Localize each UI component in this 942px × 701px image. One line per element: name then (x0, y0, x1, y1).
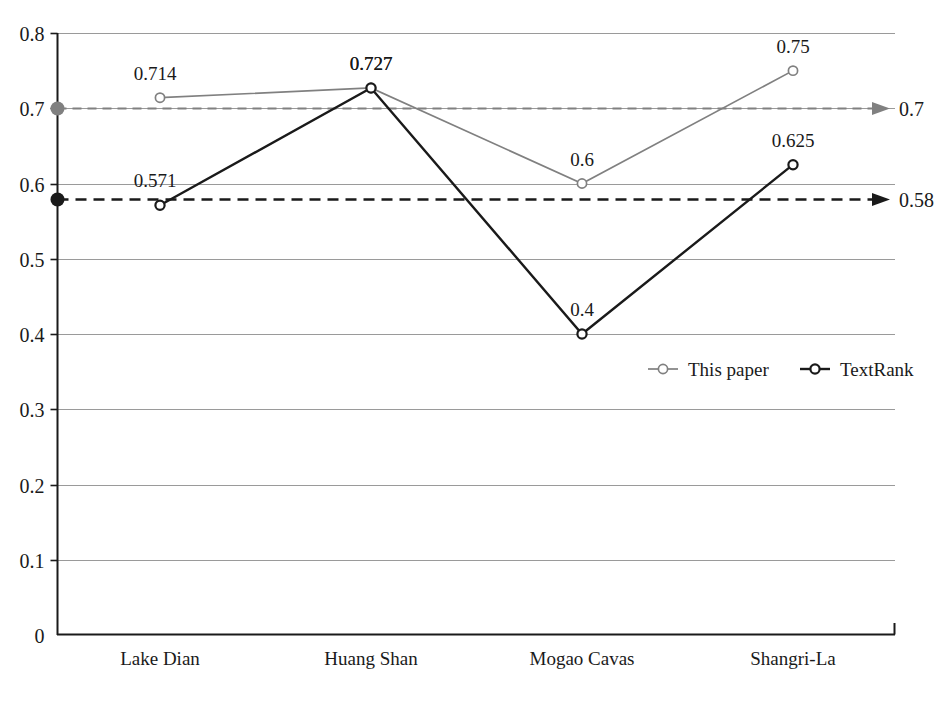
x-axis-category-label: Mogao Cavas (529, 648, 634, 669)
reference-line-label: 0.58 (899, 189, 934, 211)
y-axis-tick-label: 0.5 (20, 249, 45, 271)
data-point-marker (788, 66, 797, 75)
y-axis-tick-label: 0.3 (20, 399, 45, 421)
data-point-label: 0.6 (570, 149, 594, 170)
y-axis-tick-label: 0.8 (20, 23, 45, 45)
legend-marker-icon (810, 364, 819, 373)
legend-marker-icon (658, 364, 667, 373)
legend-label: This paper (688, 359, 769, 380)
data-point-label: 0.727 (350, 53, 393, 74)
y-axis-tick-label: 0.4 (20, 324, 45, 346)
y-axis-tick-label: 0.7 (20, 98, 45, 120)
data-point-marker (366, 83, 375, 92)
chart-canvas: 00.10.20.30.40.50.60.70.8 0.7140.7270.60… (0, 0, 942, 701)
reference-line-label: 0.7 (899, 98, 924, 120)
y-axis-tick-label: 0.6 (20, 174, 45, 196)
data-point-marker (788, 160, 797, 169)
data-point-label: 0.75 (776, 36, 809, 57)
data-point-label: 0.571 (134, 170, 177, 191)
chart-background (0, 0, 942, 701)
x-axis-category-label: Shangri-La (750, 648, 836, 669)
line-chart: 00.10.20.30.40.50.60.70.8 0.7140.7270.60… (0, 0, 942, 701)
y-axis-tick-labels: 00.10.20.30.40.50.60.70.8 (20, 23, 45, 647)
y-axis-tick-label: 0.2 (20, 475, 45, 497)
data-point-marker (155, 93, 164, 102)
y-axis-tick-label: 0.1 (20, 550, 45, 572)
data-point-marker (155, 201, 164, 210)
x-axis-category-label: Lake Dian (120, 648, 200, 669)
reference-line-origin-dot (51, 193, 65, 207)
reference-line-origin-dot (51, 102, 65, 116)
data-point-marker (577, 329, 586, 338)
data-point-label: 0.4 (570, 299, 594, 320)
data-point-marker (577, 179, 586, 188)
x-axis-category-label: Huang Shan (324, 648, 418, 669)
y-axis-tick-label: 0 (35, 625, 45, 647)
legend-label: TextRank (840, 359, 914, 380)
data-point-label: 0.625 (772, 130, 815, 151)
data-point-label: 0.714 (134, 63, 177, 84)
